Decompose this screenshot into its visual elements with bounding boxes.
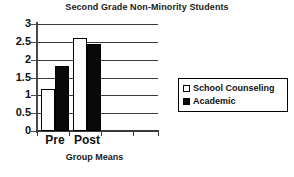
legend-item-label: Academic [193, 97, 236, 106]
y-axis-tick-label: 2.5 [1, 36, 31, 47]
x-axis-tick [133, 131, 134, 136]
bar-post-school-counseling [73, 38, 87, 131]
plot-area [37, 24, 158, 131]
x-axis-tick [158, 131, 159, 136]
chart-title: Second Grade Non-Minority Students [0, 2, 294, 12]
y-axis-tick [31, 24, 37, 25]
hollow-square-icon [183, 85, 190, 92]
y-axis-tick [31, 78, 37, 79]
gridline [37, 42, 158, 43]
bar-post-academic [87, 44, 101, 131]
y-axis-tick-label: 1.5 [1, 72, 31, 83]
chart-legend: School CounselingAcademic [178, 78, 288, 112]
y-axis-tick-label: 3 [1, 18, 31, 29]
y-axis-tick [31, 131, 37, 132]
y-axis-tick-label: 1 [1, 89, 31, 100]
y-axis-tick [31, 60, 37, 61]
filled-square-icon [183, 98, 190, 105]
y-axis-tick-label: 0 [1, 125, 31, 136]
x-axis-title: Group Means [22, 152, 167, 162]
y-axis-tick [31, 113, 37, 114]
y-axis-tick [31, 42, 37, 43]
legend-item: Academic [183, 95, 284, 108]
bar-pre-academic [55, 66, 69, 131]
legend-item-label: School Counseling [193, 84, 275, 93]
y-axis-labels: 00.511.522.53 [0, 0, 31, 177]
y-axis-tick [31, 95, 37, 96]
bar-chart: Second Grade Non-Minority Students 00.51… [0, 0, 294, 177]
y-axis-tick-label: 2 [1, 54, 31, 65]
y-axis-tick-label: 0.5 [1, 107, 31, 118]
gridline [37, 24, 158, 25]
bar-pre-school-counseling [41, 89, 55, 131]
legend-item: School Counseling [183, 82, 284, 95]
x-axis-label-post: Post [62, 134, 112, 147]
